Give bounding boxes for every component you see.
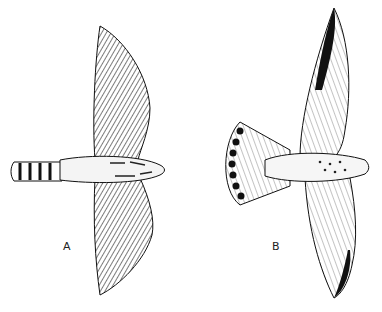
label-b: B [272,240,280,253]
bird-b [226,8,369,298]
bird-illustration-figure: A B [0,0,382,312]
bird-drawings [0,0,382,312]
label-a: A [63,240,71,253]
bird-a [11,26,165,295]
